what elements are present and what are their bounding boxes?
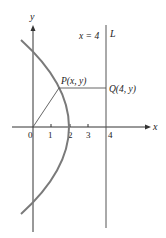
origin-label: 0 bbox=[28, 130, 33, 140]
x-axis-arrow-icon bbox=[145, 125, 151, 130]
line-L-name: L bbox=[109, 28, 116, 39]
segment-OP bbox=[33, 88, 59, 127]
y-axis-label: y bbox=[29, 11, 35, 22]
line-L-equation: x = 4 bbox=[78, 31, 99, 41]
x-tick-1: 1 bbox=[48, 130, 53, 140]
point-p-label: P(x, y) bbox=[60, 76, 86, 87]
y-axis-arrow-icon bbox=[31, 25, 36, 31]
x-tick-4: 4 bbox=[108, 130, 113, 140]
point-q-label: Q(4, y) bbox=[109, 84, 136, 95]
x-tick-3: 3 bbox=[86, 130, 91, 140]
x-axis-label: x bbox=[152, 121, 158, 132]
diagram: y x 0 1 2 3 4 x = 4 L P(x, y) Q(4, y) bbox=[0, 0, 166, 238]
